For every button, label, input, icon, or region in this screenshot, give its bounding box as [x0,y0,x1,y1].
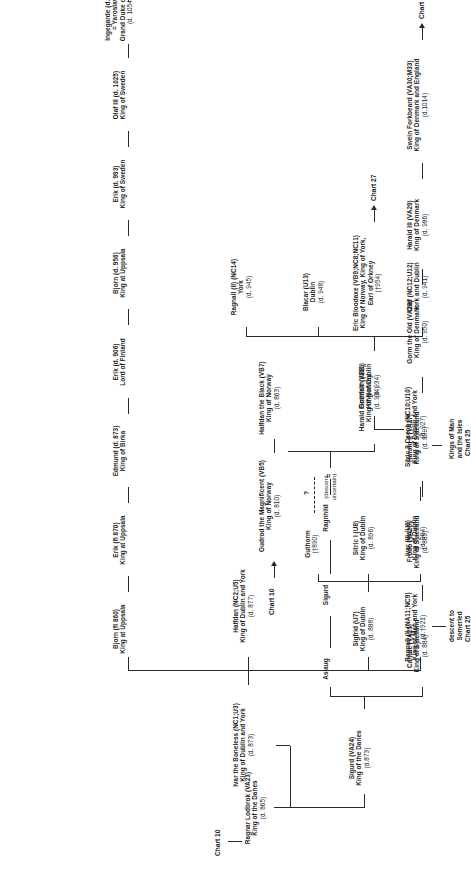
connector-line [330,616,331,648]
connector-line [128,131,129,147]
chart-ref-root[interactable]: Chart 10 [214,830,221,856]
connector-line [330,540,331,574]
node-harald-iii: Harald III (VA29) King of Denmark (d. 98… [406,180,428,270]
node-swein-forkbeard: Swein Forkbeard (VA30;M33) King of Denma… [406,42,428,168]
connector-line [374,210,375,222]
question-mark-guthorm: ? [303,491,310,495]
kings-of-man-isles-label: and the Isles [456,404,463,474]
connector-line [318,574,319,582]
chart-ref-norway[interactable]: Chart 10 [268,589,275,615]
node-sitric-i: Sitric I (U8) King of Dublin (d. 896) [352,502,374,574]
connector-line [288,451,330,452]
chart-ref-33[interactable]: Chart 33 [418,0,425,19]
connector-line [246,327,247,337]
connector-line [128,576,129,592]
connector-line [422,585,423,601]
node-eric-bloodaxe: Eric Bloodaxe (VB9;NC8;NC11) King of Nor… [352,224,382,342]
node-bjorn-860: Bjorn (fl 860) King at Uppsala [112,593,127,665]
node-canute: Canute (VA25) King of Sjaelland (d. 884) [406,602,428,690]
connector-line [432,626,446,627]
node-harald-finehair: Harald Finehair (VB8) King of Norway (d.… [358,352,380,444]
node-ragnhild: Ragnhild [322,496,329,540]
node-erik-993: Erik (d. 993) King of Sweden [112,148,127,220]
node-erik-906: Erik (d. 906) Lord of Finland [112,326,127,398]
connector-line [422,377,423,393]
connector-line [422,28,423,40]
connector-line [276,745,290,746]
connector-line [128,657,129,671]
node-ivar-the-boneless: Ivar the Boneless (NC1;U3) King of Dubli… [232,686,254,804]
kings-of-man-label: Kings of Man [448,404,455,474]
node-halfdan-the-black: Halfdan the Black (VB7) King of Norway (… [258,352,280,444]
connector-line [330,687,331,697]
connector-line [128,398,129,414]
connector-line [128,0,129,2]
connector-line [290,746,291,808]
connector-line [422,481,423,497]
node-guthorm: Guthorm (†890) [304,514,319,574]
node-halfdan-dublin-york: Halfdan (NC2;U5) King of Dublin and York… [232,547,254,665]
connector-line [364,697,365,709]
connector-line [368,582,369,592]
arrow-icon [371,205,377,210]
connector-line [248,671,249,685]
connector-line [274,807,290,808]
node-gudrod-the-magnificent: Gudrod the Magnificent (VB5) King of Nor… [258,454,280,558]
connector-line [330,451,374,452]
connector-line [274,566,275,578]
connector-line [128,487,129,503]
node-ragnall-ii: Ragnall (II) (NC14) York (d. 945) [230,247,252,327]
chart-ref-25-man[interactable]: Chart 25 [464,430,471,456]
connector-line [318,327,319,337]
connector-line [422,269,423,285]
node-frodo: Frodo (VA26) King of Sjaelland (d. 885) [406,498,428,586]
somerled-label: Somerled [456,596,463,656]
marriage-equals-sign: = [324,474,333,478]
arrow-icon [419,23,425,28]
connector-line [330,479,331,495]
node-gorm-the-old: Gorm the Old (VA28) King of Denmark (d. … [406,286,428,378]
node-sigurd-2: Sigurd [322,574,329,616]
connector-line [330,696,422,697]
node-sigfrid: Sigfrid (U7) King of Dublin (d. 888) [352,593,374,665]
node-aslaug: Aslaug [322,648,329,690]
node-ingegarde: Ingegarde (d. 1050) = Yaroslav I, Grand … [104,0,134,50]
chart-ref-27[interactable]: Chart 27 [370,175,377,201]
connector-line [432,445,442,446]
uncertain-descent-line [314,477,315,513]
node-bjorn-956: Bjorn (d. 956) King at Uppsala [112,237,127,309]
node-sigurd-danes: Sigurd (VA24) King of the Danes (d.873) [348,710,370,806]
chart-ref-25-somerled[interactable]: Chart 25 [464,616,471,642]
connector-line [330,452,331,468]
connector-line [128,220,129,236]
descent-to-somerled-label: descent to [448,596,455,656]
node-blacar: Blacar (U13) Dublin (d. 948) [302,257,324,327]
node-harald-ii: Harald II (VA27) King of Sjaelland (d. 8… [406,394,428,482]
arrow-icon [271,561,277,566]
connector-line [246,336,422,337]
connector-line [248,670,368,671]
connector-line [128,670,248,671]
connector-line [374,444,375,452]
node-olaf-iii: Olaf III (d. 1025) King of Sweden [112,59,127,131]
connector-line [128,309,129,325]
connector-line [290,807,364,808]
node-erik-870: Erik (fl 870) King at Uppsala [112,504,127,576]
node-edmund-873: Edmund (d. 873) King of Birka [112,415,127,487]
connector-line [228,841,242,842]
descent-uncertain-note-2: uncertain) [330,464,337,510]
